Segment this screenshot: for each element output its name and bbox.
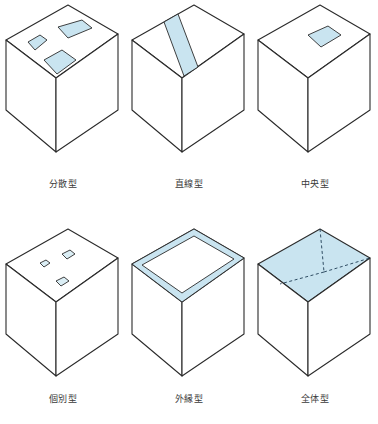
diagram-caption-gaien: 外縁型 [126, 393, 252, 405]
cube-central-square-icon [252, 0, 378, 185]
diagram-cell-chokusen: 直線型 [126, 0, 252, 212]
diagram-caption-zentai: 全体型 [252, 393, 378, 405]
cube-outer-ring-icon [126, 224, 252, 409]
diagram-grid: 分散型 直線型 [0, 0, 378, 424]
cube-whole-face-icon [252, 224, 378, 409]
cube-linear-band-icon [126, 0, 252, 185]
cube-scattered-patches-icon [0, 0, 126, 185]
diagram-cell-kobetsu: 個別型 [0, 212, 126, 424]
diagram-cell-gaien: 外縁型 [126, 212, 252, 424]
diagram-cell-zentai: 全体型 [252, 212, 378, 424]
diagram-caption-kobetsu: 個別型 [0, 393, 126, 405]
diagram-caption-chokusen: 直線型 [126, 178, 252, 190]
diagram-caption-chuo: 中央型 [252, 178, 378, 190]
diagram-caption-bunsan: 分散型 [0, 178, 126, 190]
cube-individual-dots-icon [0, 224, 126, 409]
diagram-cell-bunsan: 分散型 [0, 0, 126, 212]
diagram-cell-chuo: 中央型 [252, 0, 378, 212]
diagram-figure: 分散型 直線型 [0, 0, 378, 424]
